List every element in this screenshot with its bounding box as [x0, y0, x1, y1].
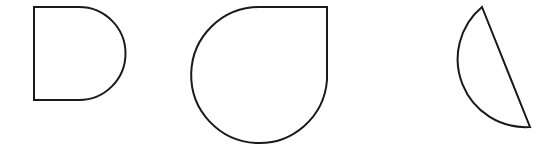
shapes-canvas — [0, 0, 551, 153]
semicircle-rectangle-shape — [34, 7, 126, 100]
teardrop-shape — [191, 7, 327, 143]
circular-segment-shape — [458, 7, 530, 127]
